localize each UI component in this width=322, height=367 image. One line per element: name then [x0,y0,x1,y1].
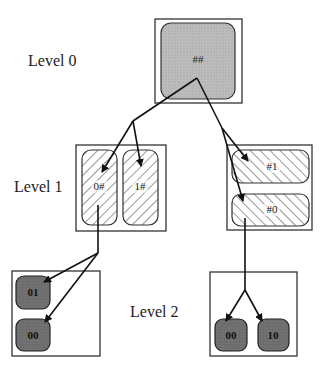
node-10-label: 10 [268,329,280,341]
level-2-label: Level 2 [130,303,178,320]
root-node-label: ## [193,53,205,65]
level-2-left-group: 01 00 [12,271,100,356]
node-1x-label: 1# [135,180,147,192]
node-00-right-label: 00 [226,329,238,341]
node-00-left-label: 00 [28,329,40,341]
level-1-label: Level 1 [14,178,62,195]
node-x1-label: #1 [267,160,278,172]
level-0-group: ## [155,19,242,103]
node-x0-label: #0 [267,203,279,215]
node-0x-label: 0# [94,180,106,192]
level-2-right-group: 00 10 [210,272,297,356]
level-1-left-group: 0# 1# [76,145,166,231]
node-01-label: 01 [28,286,39,298]
hierarchy-diagram: Level 0 Level 1 Level 2 ## 0# 1# #1 #0 0… [0,0,322,367]
level-0-label: Level 0 [28,52,76,69]
